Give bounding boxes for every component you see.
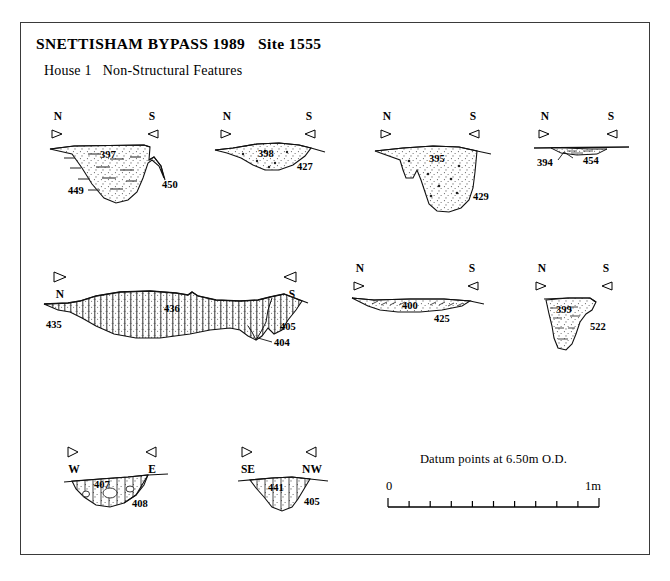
triangle-left-icon [146,447,156,457]
compass-label-left: N [56,288,65,300]
triangle-left-icon [468,282,478,290]
compass-label-right: S [306,110,312,122]
compass-label-right: S [603,262,609,274]
compass-label-left: N [538,262,547,274]
context-label-fill: 397 [100,149,116,160]
compass-label-right: E [148,463,156,475]
context-label-cut: 408 [132,498,148,509]
context-label-cut: 454 [583,155,600,166]
triangle-right-icon [52,130,62,138]
compass-label-right: S [149,110,155,122]
page-subtitle: House 1 Non-Structural Features [44,63,242,79]
fill-394-body [551,148,607,155]
context-label-extra-2: 404 [274,337,291,348]
triangle-right-icon [536,282,546,290]
compass-label-left: N [383,110,392,122]
triangle-right-icon [381,130,391,138]
context-label-extra: 450 [162,179,178,190]
scale-labels: 0 1m [386,479,601,495]
triangle-right-icon [354,282,364,290]
context-label-extra: 405 [280,321,296,332]
context-label-cut: 405 [304,496,320,507]
compass-label-left: N [54,110,63,122]
scale-min-label: 0 [386,479,392,494]
section-407-408: W E 407 408 [60,443,180,528]
datum-caption: Datum points at 6.50m O.D. [386,452,601,467]
context-label-fill: 400 [402,300,418,311]
compass-label-left: W [68,463,80,475]
fill-395-body [375,146,477,212]
context-label-cut: 522 [590,321,606,332]
context-label-fill: 394 [537,157,554,168]
context-label-cut: 435 [46,319,62,330]
triangle-right-icon [539,130,549,138]
triangle-left-icon [602,282,612,290]
scale-ticks [388,498,599,507]
scale-max-label: 1m [585,479,601,494]
context-label-fill: 441 [268,482,284,493]
compass-label-left: N [356,262,365,274]
drawing-page: SNETTISHAM BYPASS 1989 Site 1555 House 1… [0,0,670,581]
ground-surface-line [534,147,629,148]
scale-bar [386,496,601,510]
compass-label-right: S [470,110,476,122]
context-label-fill: 436 [164,303,180,314]
stone-inclusion [126,486,134,492]
section-395-429: N S 395 429 [373,108,508,233]
context-label-fill: 399 [556,304,572,315]
leader-line-404 [258,338,272,342]
section-398-427: N S 398 427 [213,108,343,208]
triangle-left-icon [469,130,479,138]
section-399-522: N S 399 522 [528,260,648,365]
context-label-fill: 395 [429,153,445,164]
triangle-left-icon [148,130,158,138]
triangle-left-icon [284,272,296,282]
compass-label-right: NW [302,463,322,475]
section-436-435: N S 436 435 405 404 [40,268,330,363]
context-label-fill: 407 [94,479,110,490]
section-397-449: N S 397 449 450 [44,108,194,223]
compass-label-left: SE [241,463,255,475]
triangle-left-icon [607,130,617,138]
compass-label-right: S [608,110,614,122]
scale-block: Datum points at 6.50m O.D. 0 1m [386,452,601,514]
context-label-cut: 427 [297,161,313,172]
triangle-right-icon [54,272,66,282]
compass-label-left: N [541,110,550,122]
section-394-454: N S 394 454 [531,108,649,188]
compass-label-left: N [223,110,232,122]
triangle-right-icon [221,130,231,138]
context-label-fill: 398 [258,148,274,159]
triangle-right-icon [68,447,78,457]
section-400-425: N S 400 425 [350,260,495,345]
section-441-405: SE NW 441 405 [232,443,352,528]
context-label-cut: 429 [473,191,489,202]
context-label-cut: 449 [68,185,84,196]
page-title: SNETTISHAM BYPASS 1989 Site 1555 [36,35,321,53]
triangle-right-icon [242,447,252,457]
triangle-left-icon [305,130,315,138]
triangle-left-icon [306,447,316,457]
compass-label-right: S [469,262,475,274]
context-label-cut: 425 [434,313,450,324]
stone-inclusion [83,491,90,497]
